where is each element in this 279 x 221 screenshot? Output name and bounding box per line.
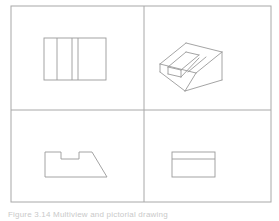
quadrant-top-view [44, 38, 106, 80]
quadrant-side-view [172, 152, 215, 177]
isometric-edge [160, 64, 196, 73]
front-view-profile [45, 152, 107, 177]
quadrant-front-view [45, 152, 107, 177]
isometric-edge [168, 74, 181, 77]
figure-caption: Figure 3.14 Multiview and pictorial draw… [8, 210, 168, 220]
isometric-edge [160, 43, 186, 64]
isometric-edge [186, 43, 222, 52]
isometric-edge-group [160, 43, 222, 91]
technical-drawing-svg [0, 0, 279, 221]
figure-container: Figure 3.14 Multiview and pictorial draw… [0, 0, 279, 221]
quadrant-dividers [11, 6, 271, 202]
top-view-outline [44, 38, 106, 80]
quadrant-pictorial-view [160, 43, 222, 91]
isometric-edge [168, 52, 186, 67]
side-view-outline [172, 152, 215, 177]
isometric-edge [186, 52, 199, 55]
isometric-edge [188, 57, 206, 72]
outer-border [11, 6, 271, 202]
